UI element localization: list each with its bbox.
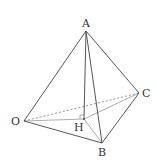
label-B: B xyxy=(98,146,106,159)
edge-OB xyxy=(24,121,102,143)
label-H: H xyxy=(74,121,84,134)
tetrahedron-diagram: A O C B H xyxy=(0,0,157,163)
label-O: O xyxy=(11,115,20,128)
edge-BC xyxy=(102,93,139,143)
label-C: C xyxy=(142,87,150,100)
edge-AO xyxy=(24,31,86,121)
label-A: A xyxy=(81,17,91,30)
edge-AH xyxy=(84,31,86,119)
segment-HC xyxy=(84,93,139,119)
edge-AB xyxy=(86,31,102,143)
